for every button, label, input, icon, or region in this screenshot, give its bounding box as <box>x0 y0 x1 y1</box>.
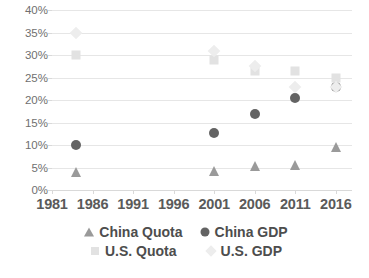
x-axis-label: 1991 <box>117 196 148 212</box>
gridline <box>52 55 352 56</box>
legend-row: China Quota China GDP <box>81 224 287 240</box>
y-axis-label: 15% <box>0 117 48 129</box>
legend-item-china-quota[interactable]: China Quota <box>81 224 182 240</box>
square-marker-icon <box>87 244 103 258</box>
data-point <box>250 161 260 171</box>
x-axis-tick <box>174 190 175 194</box>
data-point <box>209 128 219 138</box>
x-axis-line <box>52 190 352 191</box>
data-point <box>290 160 300 170</box>
y-axis-tick <box>48 123 52 124</box>
y-axis-tick <box>48 55 52 56</box>
y-axis-label: 10% <box>0 139 48 151</box>
data-point <box>70 26 83 39</box>
data-point <box>250 109 260 119</box>
diamond-marker-icon <box>203 244 219 258</box>
x-axis-tick <box>255 190 256 194</box>
y-axis-label: 20% <box>0 94 48 106</box>
gridline <box>52 33 352 34</box>
data-point <box>71 167 81 177</box>
data-point <box>331 142 341 152</box>
y-axis-tick <box>48 10 52 11</box>
legend-item-us-quota[interactable]: U.S. Quota <box>87 243 177 259</box>
chart-legend: China Quota China GDP U.S. Quota U.S. GD… <box>0 224 369 259</box>
scatter-chart: China Quota China GDP U.S. Quota U.S. GD… <box>0 0 369 278</box>
y-axis-label: 5% <box>0 162 48 174</box>
x-axis-tick <box>133 190 134 194</box>
y-axis-label: 30% <box>0 49 48 61</box>
triangle-marker-icon <box>81 225 97 239</box>
legend-label: U.S. Quota <box>105 243 177 259</box>
data-point <box>289 80 302 93</box>
gridline <box>52 100 352 101</box>
data-point <box>209 166 219 176</box>
x-axis-label: 2001 <box>198 196 229 212</box>
x-axis-tick <box>336 190 337 194</box>
y-axis-tick <box>48 100 52 101</box>
gridline <box>52 168 352 169</box>
x-axis-label: 1996 <box>158 196 189 212</box>
legend-item-china-gdp[interactable]: China GDP <box>197 224 288 240</box>
data-point <box>290 93 300 103</box>
x-axis-tick <box>295 190 296 194</box>
legend-row: U.S. Quota U.S. GDP <box>87 243 282 259</box>
gridline <box>52 145 352 146</box>
legend-item-us-gdp[interactable]: U.S. GDP <box>203 243 282 259</box>
legend-label: China Quota <box>99 224 182 240</box>
legend-label: U.S. GDP <box>221 243 282 259</box>
y-axis-tick <box>48 78 52 79</box>
y-axis-tick <box>48 168 52 169</box>
y-axis-tick <box>48 33 52 34</box>
x-axis-label: 1981 <box>36 196 67 212</box>
x-axis-tick <box>214 190 215 194</box>
x-axis-tick <box>52 190 53 194</box>
data-point <box>291 66 300 75</box>
x-axis-label: 2016 <box>320 196 351 212</box>
legend-label: China GDP <box>215 224 288 240</box>
y-axis-tick <box>48 145 52 146</box>
x-axis-label: 2011 <box>280 196 311 212</box>
y-axis-label: 35% <box>0 27 48 39</box>
gridline <box>52 123 352 124</box>
y-axis-label: 40% <box>0 4 48 16</box>
plot-area <box>52 10 352 190</box>
circle-marker-icon <box>197 225 213 239</box>
y-axis-label: 25% <box>0 72 48 84</box>
gridline <box>52 10 352 11</box>
y-axis-label: 0% <box>0 184 48 196</box>
x-axis-label: 2006 <box>239 196 270 212</box>
data-point <box>72 51 81 60</box>
data-point <box>71 140 81 150</box>
x-axis-label: 1986 <box>77 196 108 212</box>
gridline <box>52 78 352 79</box>
x-axis-tick <box>93 190 94 194</box>
